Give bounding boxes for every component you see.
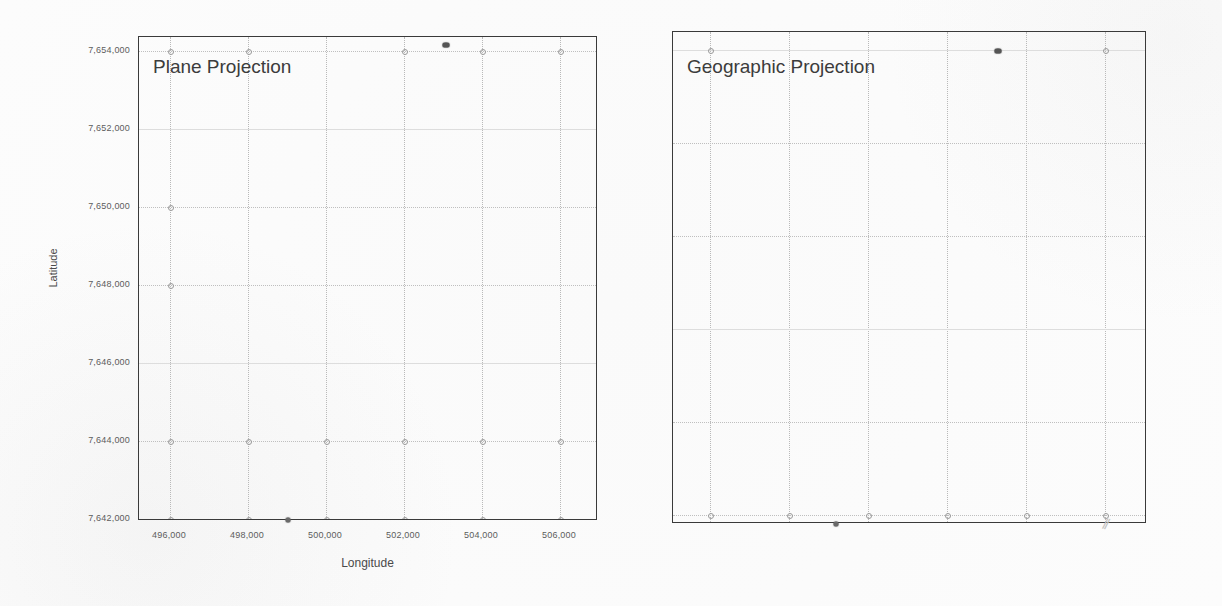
grid-tick-dot	[480, 439, 486, 445]
grid-tick-dot	[1024, 513, 1030, 519]
grid-tick-dot	[558, 49, 564, 55]
grid-tick-dot	[324, 517, 330, 519]
y-axis-title-plane-projection: Latitude	[47, 233, 59, 303]
x-tick-label: 504,000	[464, 530, 498, 540]
plot-title-geographic-projection: Geographic Projection	[687, 56, 875, 78]
x-tick-label: 496,000	[152, 530, 186, 540]
grid-tick-dot	[558, 439, 564, 445]
gridline-vertical	[1105, 32, 1106, 522]
grid-tick-dot	[402, 517, 408, 519]
gridline-vertical	[560, 37, 561, 519]
gridline-horizontal	[673, 236, 1145, 237]
x-tick-label: 506,000	[542, 530, 576, 540]
gridline-vertical	[482, 37, 483, 519]
gridline-vertical	[1026, 32, 1027, 522]
y-axis-ticklabels-plane-projection: 7,654,000 7,652,000 7,650,000 7,648,000 …	[50, 36, 130, 520]
x-axis-title-plane-projection: Longitude	[138, 556, 597, 570]
chart-panel-plane-projection: Plane Projection 7,654,000 7,652,000 7,6…	[0, 0, 620, 606]
gridline-vertical	[170, 37, 171, 519]
grid-tick-dot	[246, 517, 252, 519]
gridline-horizontal	[673, 329, 1145, 330]
grid-tick-dot	[480, 517, 486, 519]
data-point	[995, 49, 1002, 54]
gridline-vertical	[947, 32, 948, 522]
gridline-horizontal	[139, 51, 596, 52]
x-tick-label: 500,000	[308, 530, 342, 540]
gridline-horizontal	[139, 285, 596, 286]
gridline-horizontal	[673, 515, 1145, 516]
plot-title-plane-projection: Plane Projection	[153, 56, 291, 78]
grid-tick-dot	[1103, 48, 1109, 54]
grid-tick-dot	[402, 49, 408, 55]
chart-panel-geographic-projection: Geographic Projection -21.22 -21.24 -21.…	[612, 0, 1222, 606]
grid-tick-dot	[866, 513, 872, 519]
gridline-horizontal	[673, 143, 1145, 144]
grid-tick-dot	[168, 283, 174, 289]
grid-tick-dot	[246, 439, 252, 445]
grid-tick-dot	[324, 439, 330, 445]
gridline-vertical	[789, 32, 790, 522]
data-point	[286, 518, 291, 523]
x-tick-label: 502,000	[386, 530, 420, 540]
gridline-horizontal	[673, 422, 1145, 423]
y-tick-label: 7,646,000	[88, 357, 130, 367]
plot-area-geographic-projection: Geographic Projection	[672, 31, 1146, 523]
y-tick-label: 7,654,000	[88, 45, 130, 55]
grid-tick-dot	[480, 49, 486, 55]
grid-tick-dot	[402, 439, 408, 445]
grid-tick-dot	[168, 439, 174, 445]
y-tick-label: 7,648,000	[88, 279, 130, 289]
grid-tick-dot	[708, 513, 714, 519]
data-point	[443, 43, 450, 48]
data-point	[834, 522, 839, 527]
grid-tick-dot	[558, 517, 564, 519]
y-tick-label: 7,642,000	[88, 513, 130, 523]
grid-tick-dot	[787, 513, 793, 519]
gridline-horizontal	[139, 441, 596, 442]
grid-tick-dot	[945, 513, 951, 519]
gridline-horizontal	[139, 129, 596, 130]
grid-tick-dot	[168, 517, 174, 519]
gridline-horizontal	[139, 363, 596, 364]
gridline-vertical	[710, 32, 711, 522]
gridline-vertical	[868, 32, 869, 522]
gridlines-geographic-projection	[673, 32, 1145, 522]
y-tick-label: 7,652,000	[88, 123, 130, 133]
gridline-horizontal	[673, 50, 1145, 51]
gridlines-plane-projection	[139, 37, 596, 519]
gridline-vertical	[404, 37, 405, 519]
x-axis-ticklabels-plane-projection: 496,000 498,000 500,000 502,000 504,000 …	[138, 530, 597, 544]
plot-area-plane-projection: Plane Projection	[138, 36, 597, 520]
gridline-vertical	[248, 37, 249, 519]
grid-tick-dot	[246, 49, 252, 55]
y-tick-label: 7,650,000	[88, 201, 130, 211]
gridline-horizontal	[139, 207, 596, 208]
x-tick-label: 498,000	[230, 530, 264, 540]
gridline-vertical	[326, 37, 327, 519]
grid-tick-dot	[168, 49, 174, 55]
y-tick-label: 7,644,000	[88, 435, 130, 445]
grid-tick-dot	[708, 48, 714, 54]
grid-tick-dot	[168, 205, 174, 211]
